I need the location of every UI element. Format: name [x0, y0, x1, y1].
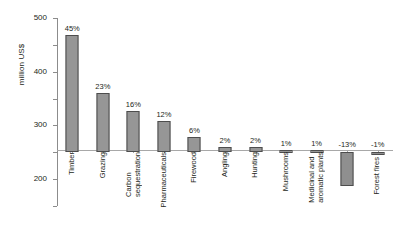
category-label-text: Medicinal and aromatic plants [308, 152, 325, 203]
y-tick-label: 400 [34, 68, 47, 76]
bar[interactable] [96, 93, 109, 153]
category-label: Hunting [240, 152, 271, 178]
category-label-text: Pharmaceuticals [160, 152, 169, 207]
bar-chart: million US$ 5004003002001000-100-200 45%… [0, 0, 399, 226]
category-label: Firewood [179, 152, 210, 183]
category-label: Grazing [88, 152, 119, 178]
category-label-text: Mushrooms [282, 152, 291, 191]
category-label-text: Forest fires [373, 157, 382, 195]
bar-value-label: 1% [311, 140, 322, 148]
bar[interactable] [66, 35, 79, 152]
category-label: Mushrooms [271, 152, 302, 191]
category-label: Forest fires [362, 157, 393, 195]
bar-value-label: 6% [189, 127, 200, 135]
y-tick-label: 200 [34, 175, 47, 183]
bar[interactable] [127, 111, 140, 153]
category-label-text: Timber [68, 152, 77, 175]
category-label-text: Grazing [99, 152, 108, 178]
bar[interactable] [188, 137, 201, 153]
bar-value-label: -1% [371, 141, 384, 149]
y-axis-title: million US$ [17, 20, 26, 110]
category-label: Angling [210, 152, 241, 177]
bar-value-label: 45% [65, 25, 80, 33]
bar-value-label: 23% [95, 83, 110, 91]
bar-value-label: 12% [156, 111, 171, 119]
bar-value-label: -13% [338, 141, 356, 149]
category-label: Pharmaceuticals [149, 152, 180, 207]
bar-value-label: 16% [126, 101, 141, 109]
category-label-text: Firewood [190, 152, 199, 183]
category-label: Timber [57, 152, 88, 175]
bar-value-label: 1% [281, 140, 292, 148]
bar-value-label: 2% [250, 137, 261, 145]
y-tick-label: 300 [34, 121, 47, 129]
category-label: Carbon sequestration [118, 152, 149, 197]
category-label-text: Hunting [251, 152, 260, 178]
category-label-text: Carbon sequestration [125, 152, 142, 197]
x-axis-category-labels: TimberGrazingCarbon sequestrationPharmac… [57, 152, 393, 226]
category-label: Medicinal and aromatic plants [301, 152, 332, 203]
y-tick-label: 500 [34, 14, 47, 22]
bar[interactable] [157, 121, 170, 152]
category-label-text: Angling [221, 152, 230, 177]
bar-value-label: 2% [220, 137, 231, 145]
